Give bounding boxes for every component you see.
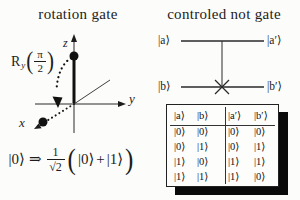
table-cell: |0⟩ [197,125,228,140]
cnot-gate-title: controled not gate [150,6,298,23]
equation-term-one: |1⟩ [107,152,123,167]
equation-fraction-denominator: √2 [49,160,62,173]
equation-input-ket: |0⟩ [9,152,25,167]
fraction-denominator: 2 [37,62,43,74]
equation-fraction-numerator: 1 [47,146,65,160]
table-cell: |0⟩ [254,170,280,185]
table-cell: |0⟩ [228,125,254,140]
table-header: |b′⟩ [254,107,280,125]
table-cell: |0⟩ [174,140,197,155]
cnot-truth-table: |a⟩ |b⟩ |a′⟩ |b′⟩ |0⟩ |0⟩ |0⟩ |0⟩ |0⟩ |1… [166,104,279,187]
rotation-arc [57,58,72,90]
y-axis-arrow-icon [118,101,126,107]
state-equation: |0⟩ ⇒ 1 √2 ( |0⟩ + |1⟩ ) [0,146,142,173]
radicand: 2 [56,159,62,174]
implies-arrow: ⇒ [29,152,42,167]
target-input-label: |b⟩ [158,81,171,93]
target-output-label: |b′⟩ [267,81,282,93]
control-input-label: |a⟩ [158,35,170,47]
gate-symbol: R [11,55,20,69]
table-cell: |1⟩ [174,170,197,185]
z-axis-label: z [62,36,68,50]
table-header: |b⟩ [197,107,228,125]
table-cell: |1⟩ [254,140,280,155]
ry-gate-label: R y ( π 2 ) [11,49,54,74]
table-header: |a′⟩ [228,107,254,125]
fraction-numerator: π [34,49,46,62]
x-axis-back-line [74,80,110,104]
one-over-root-two: 1 √2 [47,146,65,173]
truth-table-grid: |a⟩ |b⟩ |a′⟩ |b′⟩ |0⟩ |0⟩ |0⟩ |0⟩ |0⟩ |1… [167,105,278,186]
x-axis-label: x [18,115,25,130]
rotation-gate-title: rotation gate [2,6,154,23]
y-axis-label: y [127,91,135,106]
open-paren: ( [26,49,33,73]
quantum-gates-figure: rotation gate z y x R y ( π 2 ) [0,0,300,200]
equation-close-paren: ) [125,145,133,174]
table-cell: |1⟩ [254,155,280,170]
state-point-x-dot [39,118,48,127]
equation-open-paren: ( [68,145,76,174]
table-cell: |1⟩ [228,155,254,170]
radical-sign: √ [49,160,56,174]
equation-plus: + [96,152,104,167]
table-cell: |0⟩ [197,155,228,170]
rotation-arc-arrow-icon [53,97,63,109]
table-cell: |0⟩ [174,125,197,140]
table-cell: |0⟩ [254,125,280,140]
state-point-z-dot [70,52,79,61]
equation-term-zero: |0⟩ [78,152,94,167]
table-cell: |1⟩ [228,170,254,185]
table-header: |a⟩ [174,107,197,125]
table-cell: |1⟩ [197,170,228,185]
pi-over-two-fraction: π 2 [34,49,46,74]
table-cell: |0⟩ [228,140,254,155]
table-cell: |1⟩ [197,140,228,155]
table-cell: |1⟩ [174,155,197,170]
rotation-axes-diagram: z y x [0,30,150,145]
z-axis-arrow-icon [71,34,77,42]
control-output-label: |a′⟩ [267,35,281,47]
gate-subscript: y [21,61,25,70]
close-paren: ) [47,49,54,73]
